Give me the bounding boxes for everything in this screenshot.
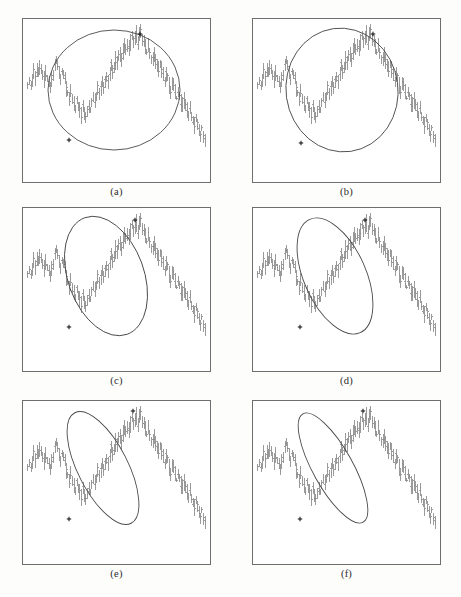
extreme-point-marker	[67, 325, 71, 329]
panel-e-label: (e)	[22, 568, 211, 579]
panel-e-chart	[22, 400, 211, 565]
panel-f-label: (f)	[252, 568, 441, 579]
ohlc-bars	[257, 406, 436, 529]
annotation-ellipse	[49, 207, 163, 347]
panel-b-chart	[252, 18, 441, 183]
panel-b-label: (b)	[252, 186, 441, 197]
extreme-point-marker	[298, 517, 302, 521]
panel-c-chart	[22, 207, 211, 372]
annotation-ellipse	[48, 30, 180, 150]
panel-f: (f)	[252, 400, 441, 565]
panel-a-label: (a)	[22, 186, 211, 197]
extreme-point-marker	[298, 325, 302, 329]
panel-a: (a)	[22, 18, 211, 183]
panel-c-label: (c)	[22, 375, 211, 386]
extreme-point-marker	[131, 409, 135, 413]
panel-d: (d)	[252, 207, 441, 372]
panel-f-chart	[252, 400, 441, 565]
extreme-point-marker	[67, 517, 71, 521]
panel-b: (b)	[252, 18, 441, 183]
multi-panel-figure: (a) (b) (c) (d) (e) (f)	[0, 0, 461, 597]
panel-c: (c)	[22, 207, 211, 372]
panel-a-chart	[22, 18, 211, 183]
ohlc-bars	[257, 213, 436, 336]
ohlc-bars	[27, 24, 206, 147]
extreme-point-marker	[67, 138, 71, 142]
panel-d-chart	[252, 207, 441, 372]
ohlc-bars	[27, 406, 206, 529]
panel-d-label: (d)	[252, 375, 441, 386]
ohlc-bars	[257, 24, 436, 147]
extreme-point-marker	[361, 409, 365, 413]
extreme-point-marker	[299, 141, 303, 145]
ohlc-bars	[27, 213, 206, 336]
panel-e: (e)	[22, 400, 211, 565]
